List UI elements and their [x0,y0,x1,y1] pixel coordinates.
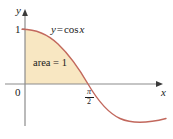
y-tick-label-one: 1 [15,24,21,35]
cosine-area-figure: y x 1 0 y = cos x area = 1 π 2 [0,0,173,139]
fraction-numerator: π [81,88,97,96]
equation-argument: x [80,23,85,35]
curve-equation-label: y = cos x [51,24,84,35]
fraction-denominator: 2 [81,98,97,106]
y-axis-label: y [16,5,21,16]
x-axis-label: x [161,87,166,98]
area-annotation-label: area = 1 [33,58,67,69]
plot-canvas [0,0,173,139]
equation-function-name: cos [64,23,79,35]
x-tick-label-pi-over-two: π 2 [81,88,97,107]
y-axis-arrowhead [22,9,28,16]
origin-label: 0 [15,87,21,98]
